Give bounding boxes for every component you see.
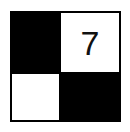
cell-r1-c1[interactable]: [60, 73, 120, 121]
cell-r0-c0[interactable]: [11, 12, 60, 73]
cell-r1-c0[interactable]: [11, 73, 60, 121]
puzzle-grid: 7: [10, 11, 121, 122]
cell-r0-c1[interactable]: 7: [60, 12, 120, 73]
cell-number: 7: [61, 26, 119, 60]
